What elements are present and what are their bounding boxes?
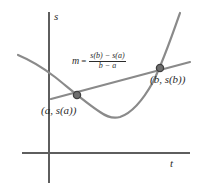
point-a-label: (a, s(a))	[41, 105, 76, 116]
slope-formula: m = s(b) − s(a) b − a	[72, 52, 126, 71]
x-axis-label: t	[170, 158, 173, 169]
point-b-marker	[156, 64, 163, 71]
fraction-numerator: s(b) − s(a)	[89, 52, 125, 61]
slope-symbol: m	[72, 56, 79, 66]
point-b-label: (b, s(b))	[150, 74, 185, 85]
point-a-marker	[73, 91, 80, 98]
equals-sign: =	[81, 57, 86, 66]
secant-line-diagram	[0, 0, 208, 195]
y-axis-label: s	[54, 11, 58, 22]
fraction-denominator: b − a	[98, 62, 117, 71]
difference-quotient-fraction: s(b) − s(a) b − a	[89, 52, 125, 71]
